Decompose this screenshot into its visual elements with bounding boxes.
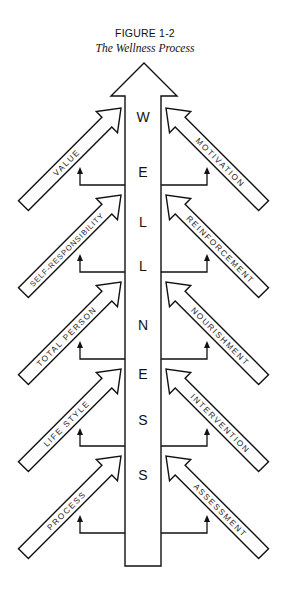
wellness-letter: W	[136, 109, 150, 125]
wellness-process-diagram: VALUESELF-RESPONSIBILITYTOTAL PERSONLIFE…	[0, 0, 290, 599]
wellness-letter: S	[138, 412, 147, 428]
connector-arrowhead-icon	[204, 515, 210, 522]
wellness-letter: E	[138, 366, 147, 382]
connector-arrow	[161, 259, 207, 272]
wellness-letter: N	[138, 317, 148, 333]
connector-arrowhead-icon	[77, 167, 83, 174]
arrow-label: SELF-RESPONSIBILITY	[28, 211, 106, 289]
connector-arrowhead-icon	[204, 254, 210, 261]
connector-arrow	[161, 346, 207, 359]
connector-arrow	[161, 433, 207, 446]
connector-arrowhead-icon	[77, 428, 83, 435]
connector-arrow	[80, 346, 125, 359]
connector-arrowhead-icon	[77, 254, 83, 261]
connector-arrow	[80, 520, 125, 533]
wellness-letter: L	[139, 214, 147, 230]
wellness-letter: L	[139, 258, 147, 274]
arrow-label: PROCESS	[46, 489, 89, 532]
connector-arrow	[80, 433, 125, 446]
arrow-label: REINFORCEMENT	[184, 214, 256, 286]
connector-arrow	[80, 259, 125, 272]
central-wellness-arrow	[111, 63, 177, 566]
connector-arrow	[161, 172, 207, 185]
wellness-letter: S	[138, 467, 147, 483]
arrow-label: MOTIVATION	[194, 136, 247, 189]
arrow-label: ASSESSMENT	[191, 482, 248, 539]
connector-arrowhead-icon	[204, 428, 210, 435]
arrow-label: LIFE STYLE	[42, 399, 92, 449]
connector-arrow	[80, 172, 125, 185]
connector-arrowhead-icon	[77, 515, 83, 522]
wellness-letter: E	[138, 164, 147, 180]
connector-arrow	[161, 520, 207, 533]
connector-arrowhead-icon	[204, 167, 210, 174]
connector-arrowhead-icon	[77, 341, 83, 348]
connector-arrowhead-icon	[204, 341, 210, 348]
